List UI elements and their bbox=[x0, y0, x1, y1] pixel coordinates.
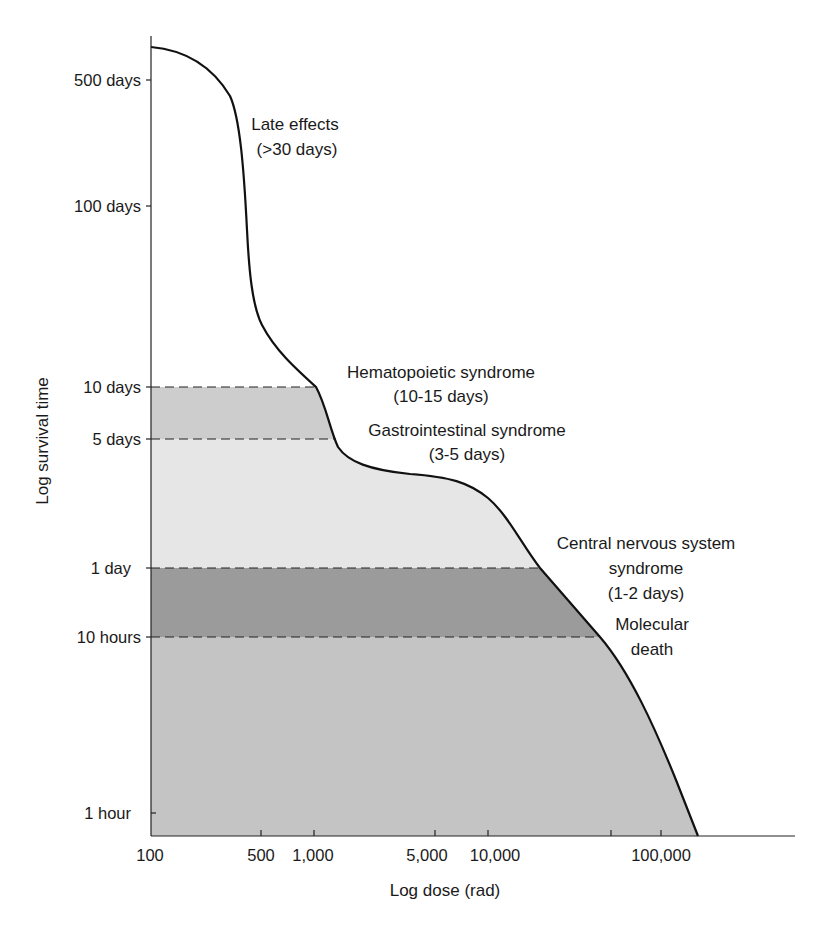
y-tick-label: 1 day bbox=[91, 559, 132, 577]
svg-text:Hematopoietic syndrome: Hematopoietic syndrome bbox=[347, 363, 535, 382]
survival-dose-chart: 500 days 100 days 10 days 5 days 1 day 1… bbox=[0, 0, 822, 929]
x-tick-label: 100,000 bbox=[631, 846, 691, 864]
y-axis-title: Log survival time bbox=[33, 377, 52, 505]
svg-text:Molecular: Molecular bbox=[615, 615, 689, 634]
x-tick-label: 5,000 bbox=[406, 846, 447, 864]
annotation-gastrointestinal: Gastrointestinal syndrome (3-5 days) bbox=[368, 421, 565, 464]
y-tick-label: 5 days bbox=[92, 430, 141, 448]
svg-text:death: death bbox=[631, 640, 674, 659]
y-tick-label: 10 hours bbox=[77, 628, 141, 646]
svg-text:(3-5 days): (3-5 days) bbox=[429, 445, 506, 464]
y-tick-labels: 500 days 100 days 10 days 5 days 1 day 1… bbox=[74, 71, 141, 822]
x-tick-label: 100 bbox=[136, 846, 164, 864]
svg-text:Central nervous system: Central nervous system bbox=[557, 534, 736, 553]
svg-text:(10-15 days): (10-15 days) bbox=[393, 387, 488, 406]
y-tick-label: 10 days bbox=[83, 378, 141, 396]
x-tick-label: 10,000 bbox=[470, 846, 520, 864]
svg-text:Gastrointestinal syndrome: Gastrointestinal syndrome bbox=[368, 421, 565, 440]
x-tick-label: 1,000 bbox=[292, 846, 333, 864]
annotation-late-effects: Late effects (>30 days) bbox=[251, 115, 339, 159]
svg-text:(1-2 days): (1-2 days) bbox=[608, 584, 685, 603]
annotation-hematopoietic: Hematopoietic syndrome (10-15 days) bbox=[347, 363, 535, 406]
x-tick-label: 500 bbox=[247, 846, 275, 864]
svg-text:syndrome: syndrome bbox=[609, 559, 684, 578]
x-axis-title: Log dose (rad) bbox=[390, 881, 501, 900]
x-tick-labels: 100 500 1,000 5,000 10,000 100,000 bbox=[136, 846, 691, 864]
y-tick-label: 500 days bbox=[74, 71, 141, 89]
band-molecular bbox=[151, 637, 751, 836]
svg-text:(>30 days): (>30 days) bbox=[257, 140, 338, 159]
annotation-molecular-death: Molecular death bbox=[615, 615, 689, 659]
svg-text:Late effects: Late effects bbox=[251, 115, 339, 134]
y-tick-label: 1 hour bbox=[84, 804, 131, 822]
annotation-cns: Central nervous system syndrome (1-2 day… bbox=[557, 534, 736, 603]
y-tick-label: 100 days bbox=[74, 197, 141, 215]
